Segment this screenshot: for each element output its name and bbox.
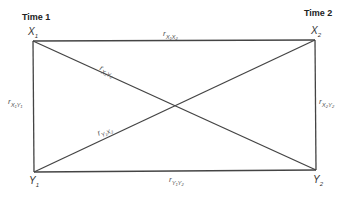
node-x1: X1 [28,26,38,39]
edge-left [33,41,34,172]
label-right-sub: X₂Y₂ [322,102,335,108]
node-x1-base: X [28,26,35,37]
label-bottom: rY₁Y₂ [169,175,184,186]
node-x2-base: X [311,25,318,36]
node-x2: X2 [311,25,321,38]
edge-top [33,40,315,41]
node-y2-sub: 2 [320,181,323,187]
label-left: rX₁Y₁ [8,97,22,108]
node-y2: Y2 [313,174,323,187]
node-y1: Y1 [29,175,39,188]
time-1-label: Time 1 [22,12,50,22]
edge-bottom [34,170,316,172]
label-right: rX₂Y₂ [319,97,334,108]
node-x1-sub: 1 [35,33,38,39]
node-y2-base: Y [313,174,320,185]
label-top: rX₁X₂ [163,29,178,40]
node-y1-base: Y [29,175,36,186]
label-left-sub: X₁Y₁ [11,102,23,108]
node-x2-sub: 2 [318,32,321,38]
label-top-sub: X₁X₂ [166,34,178,40]
node-y1-sub: 1 [36,182,39,188]
time-2-label: Time 2 [304,8,332,18]
edge-right [315,40,316,170]
label-bottom-sub: Y₁Y₂ [172,180,184,186]
edge-diag-up [34,40,315,172]
